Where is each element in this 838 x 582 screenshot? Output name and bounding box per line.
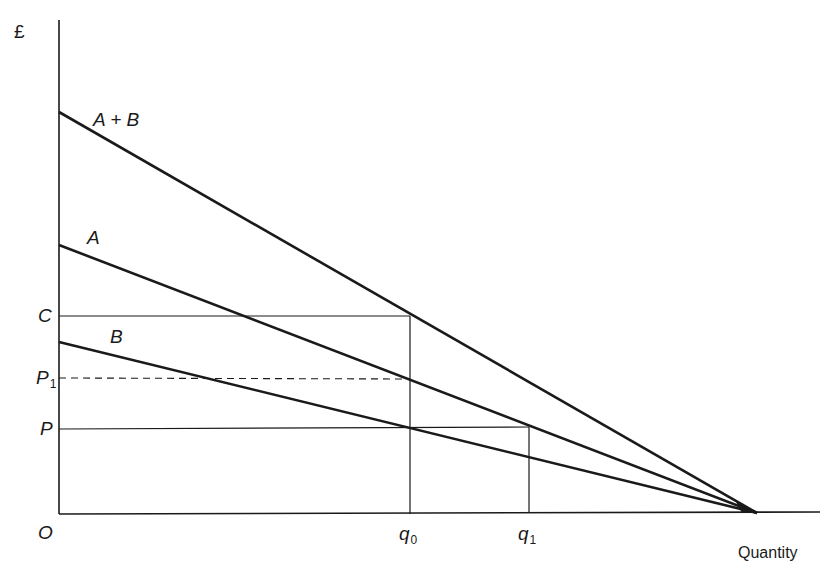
quantity-label-q0: q0 <box>399 524 417 546</box>
x-axis-label: Quantity <box>738 545 798 561</box>
price-line-p <box>59 427 529 429</box>
quantity-label-q1-subscript: 1 <box>530 533 537 547</box>
price-label-p1: P1 <box>36 368 56 390</box>
origin-label: O <box>38 523 53 542</box>
curve-a-plus-b <box>59 112 757 513</box>
curve-label-a: A <box>87 228 100 247</box>
x-axis <box>59 512 820 514</box>
price-label-p1-subscript: 1 <box>50 377 57 391</box>
curve-b <box>59 342 757 513</box>
curve-label-b: B <box>110 327 123 346</box>
quantity-label-q1-main: q <box>518 523 529 544</box>
price-label-p1-main: P <box>36 367 49 388</box>
price-line-p1 <box>59 378 410 379</box>
curve-a <box>59 245 757 513</box>
diagram-canvas <box>0 0 838 582</box>
quantity-label-q0-subscript: 0 <box>411 533 418 547</box>
y-axis-label: £ <box>14 22 25 41</box>
quantity-label-q0-main: q <box>399 523 410 544</box>
curve-label-a-plus-b: A + B <box>93 110 139 129</box>
price-label-c: C <box>38 306 52 325</box>
price-label-p: P <box>40 419 53 438</box>
quantity-label-q1: q1 <box>518 524 536 546</box>
